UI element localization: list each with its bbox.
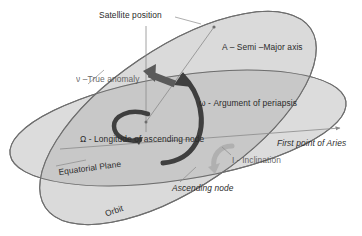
label-satellite-position: Satellite position: [99, 11, 162, 19]
orbital-elements-diagram: Satellite position A – Semi –Major axis …: [0, 0, 362, 236]
label-ascending-node: Ascending node: [172, 184, 233, 192]
label-first-point-of-aries: First point of Aries: [277, 139, 346, 147]
satellite-position-point: [212, 25, 215, 28]
satellite-label-leader-line: [175, 17, 201, 24]
orbit-geometry-svg: [0, 0, 362, 236]
label-semi-major-axis: A – Semi –Major axis: [222, 43, 303, 51]
label-longitude-of-ascending-node: Ω - Longitude of ascending node: [80, 135, 204, 143]
label-inclination: I - Inclination: [232, 156, 281, 164]
label-true-anomaly: ν –True anomaly: [76, 75, 140, 83]
label-argument-of-periapsis: ω - Argument of periapsis: [199, 99, 297, 107]
focus-point: [145, 121, 148, 124]
